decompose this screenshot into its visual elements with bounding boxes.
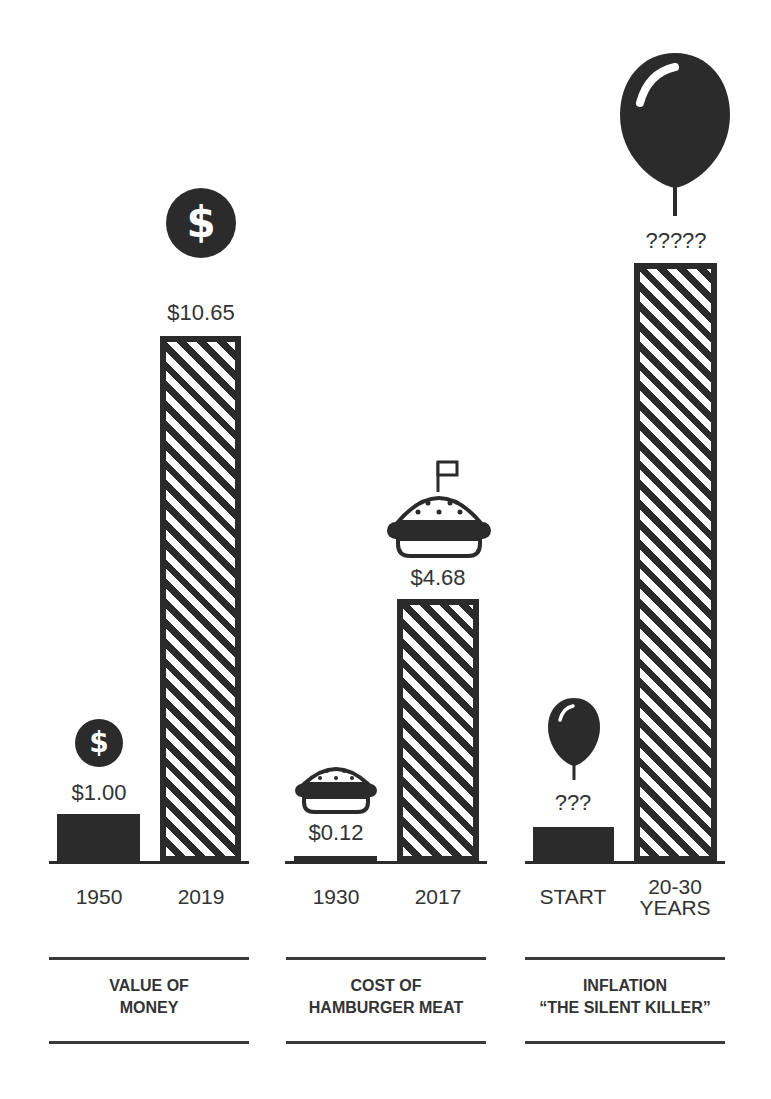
svg-text:$: $	[186, 198, 215, 247]
balloon-icon-small	[548, 698, 600, 782]
svg-text:$: $	[89, 726, 108, 759]
baseline	[525, 861, 725, 864]
category-2017: 2017	[383, 886, 493, 907]
group-title: INFLATION “THE SILENT KILLER”	[520, 975, 730, 1019]
dollar-coin-icon-small: $	[75, 719, 123, 767]
category-1930: 1930	[281, 886, 391, 907]
balloon-icon-large	[620, 53, 730, 218]
divider-top	[49, 957, 249, 960]
divider-top	[525, 957, 725, 960]
bar-2017	[397, 599, 479, 862]
category-2019: 2019	[146, 886, 256, 907]
divider-top	[286, 957, 486, 960]
value-label-start: ???	[513, 790, 633, 816]
bar-1950	[57, 814, 140, 862]
divider-bottom	[49, 1041, 249, 1044]
baseline	[49, 861, 249, 864]
hamburger-flag-icon-large	[386, 460, 492, 558]
divider-bottom	[286, 1041, 486, 1044]
value-label-2017: $4.68	[378, 565, 498, 591]
divider-bottom	[525, 1041, 725, 1044]
hamburger-icon-small	[294, 762, 378, 814]
value-label-20-30-years: ?????	[616, 228, 736, 254]
value-label-1930: $0.12	[276, 820, 396, 846]
baseline	[285, 861, 487, 864]
dollar-coin-icon-large: $	[166, 188, 236, 258]
category-20-30-years: 20-30 YEARS	[620, 876, 730, 918]
bar-20-30-years	[634, 263, 717, 862]
category-1950: 1950	[44, 886, 154, 907]
bar-2019	[160, 336, 241, 862]
value-label-2019: $10.65	[141, 300, 261, 326]
value-label-1950: $1.00	[39, 780, 159, 806]
bar-start	[533, 827, 614, 862]
group-title: COST OF HAMBURGER MEAT	[281, 975, 491, 1019]
group-title: VALUE OF MONEY	[44, 975, 254, 1019]
category-start: START	[518, 886, 628, 907]
